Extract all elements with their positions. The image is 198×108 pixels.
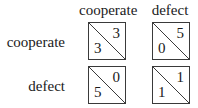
- row-player-payoff: 3: [94, 41, 102, 56]
- column-player-payoff: 5: [177, 26, 185, 41]
- row-player-payoff: 5: [94, 85, 102, 100]
- cell-defect-cooperate: 0 5: [88, 66, 126, 104]
- column-player-payoff: 3: [113, 26, 121, 41]
- row-label-defect: defect: [28, 78, 65, 95]
- cell-cooperate-cooperate: 3 3: [88, 22, 126, 60]
- cell-cooperate-defect: 5 0: [152, 22, 190, 60]
- column-label-cooperate: cooperate: [79, 2, 137, 19]
- row-label-cooperate: cooperate: [7, 34, 65, 51]
- column-player-payoff: 1: [177, 70, 185, 85]
- column-player-payoff: 0: [113, 70, 121, 85]
- row-player-payoff: 0: [158, 41, 166, 56]
- cell-defect-defect: 1 1: [152, 66, 190, 104]
- column-label-defect: defect: [145, 2, 195, 19]
- row-player-payoff: 1: [158, 85, 166, 100]
